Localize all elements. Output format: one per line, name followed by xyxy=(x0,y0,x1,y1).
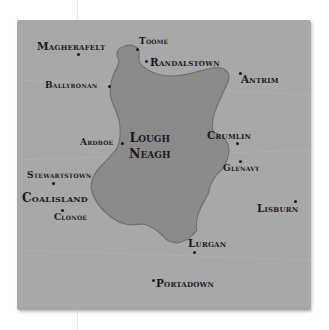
lake-name-line2: Neagh xyxy=(129,146,170,162)
place-antrim[interactable]: Antrim xyxy=(241,74,279,85)
place-randalstown[interactable]: Randalstown xyxy=(150,57,220,68)
place-clonoe[interactable]: Clonoe xyxy=(54,213,87,222)
place-toome[interactable]: Toome xyxy=(139,37,168,46)
place-dot-toome xyxy=(136,48,139,51)
lake-label: Lough Neagh xyxy=(129,130,170,161)
place-stewartstown[interactable]: Stewartstown xyxy=(27,171,92,180)
place-dot-crumlin xyxy=(236,142,239,145)
place-dot-portadown xyxy=(152,279,155,282)
place-dot-lurgan xyxy=(193,251,196,254)
place-lurgan[interactable]: Lurgan xyxy=(188,238,226,249)
place-lisburn[interactable]: Lisburn xyxy=(257,203,298,214)
place-crumlin[interactable]: Crumlin xyxy=(207,130,251,141)
place-dot-ballyronan xyxy=(108,85,111,88)
place-dot-stewartstown xyxy=(52,182,55,185)
lake-name-line1: Lough xyxy=(129,130,170,146)
place-dot-magherafelt xyxy=(77,53,80,56)
place-ardboe[interactable]: Ardboe xyxy=(80,138,113,147)
place-portadown[interactable]: Portadown xyxy=(156,278,214,289)
place-magherafelt[interactable]: Magherafelt xyxy=(37,41,105,52)
place-coalisland[interactable]: Coalisland xyxy=(22,192,88,204)
map-panel[interactable]: Lough Neagh Magherafelt Toome Randalstow… xyxy=(17,20,311,310)
place-ballyronan[interactable]: Ballyronan xyxy=(45,81,97,90)
place-glenavy[interactable]: Glenavy xyxy=(223,164,260,173)
place-dot-randalstown xyxy=(145,60,148,63)
place-dot-ardboe xyxy=(121,142,124,145)
